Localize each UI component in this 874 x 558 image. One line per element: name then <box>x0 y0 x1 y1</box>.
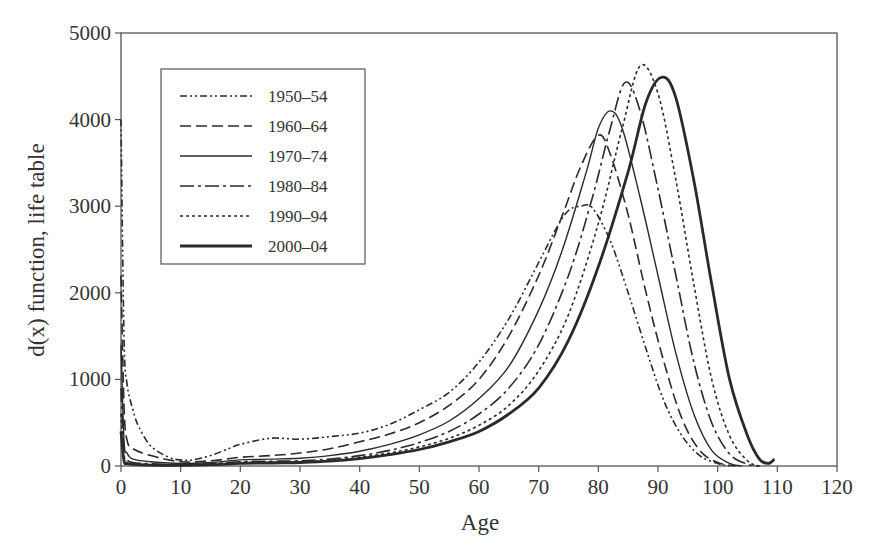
y-tick-label: 3000 <box>69 194 111 218</box>
legend-item-label: 1950–54 <box>268 87 328 106</box>
legend-box <box>161 69 365 264</box>
x-tick-label: 80 <box>588 475 609 499</box>
y-tick-label: 2000 <box>69 281 111 305</box>
legend-item-label: 1990–94 <box>268 207 328 226</box>
y-axis-title: d(x) function, life table <box>24 143 49 356</box>
x-tick-label: 40 <box>349 475 370 499</box>
x-tick-label: 0 <box>116 475 127 499</box>
y-tick-label: 5000 <box>69 21 111 45</box>
x-tick-label: 60 <box>469 475 490 499</box>
legend-item-label: 1980–84 <box>268 177 328 196</box>
x-tick-label: 110 <box>762 475 793 499</box>
legend-item-label: 1960–64 <box>268 117 328 136</box>
legend: 1950–541960–641970–741980–841990–942000–… <box>161 69 365 264</box>
legend-item-label: 1970–74 <box>268 147 328 166</box>
x-tick-label: 100 <box>702 475 734 499</box>
x-tick-label: 70 <box>528 475 549 499</box>
x-tick-label: 10 <box>170 475 191 499</box>
y-tick-label: 4000 <box>69 108 111 132</box>
x-tick-label: 50 <box>409 475 430 499</box>
x-axis-title: Age <box>461 510 499 535</box>
x-tick-label: 90 <box>648 475 669 499</box>
y-axis: 010002000300040005000 <box>69 21 121 478</box>
x-axis: 0102030405060708090100110120 <box>116 466 853 499</box>
x-tick-label: 120 <box>821 475 853 499</box>
legend-item-label: 2000–04 <box>268 237 328 256</box>
x-tick-label: 30 <box>290 475 311 499</box>
life-table-chart: 010002000300040005000 010203040506070809… <box>0 0 874 558</box>
y-tick-label: 1000 <box>69 367 111 391</box>
x-tick-label: 20 <box>230 475 251 499</box>
y-tick-label: 0 <box>101 454 112 478</box>
